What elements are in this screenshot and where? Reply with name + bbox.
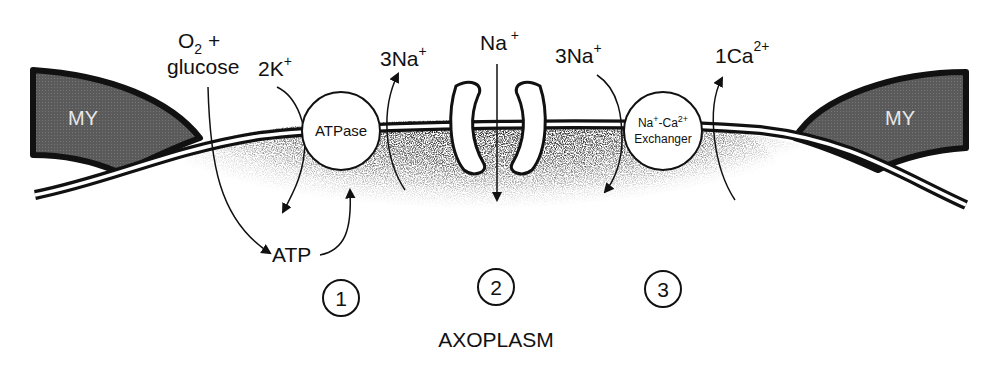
marker-1: 1 — [323, 280, 359, 316]
axoplasm-label: AXOPLASM — [438, 328, 554, 351]
svg-text:2: 2 — [490, 276, 502, 299]
svg-text:1: 1 — [335, 287, 347, 310]
glucose-label: glucose — [167, 55, 239, 78]
marker-3: 3 — [645, 271, 681, 307]
exchanger-label-line2: Exchanger — [634, 132, 691, 146]
myelin-left-label: MY — [68, 107, 98, 129]
myelin-right-label: MY — [885, 107, 915, 129]
atpase-label: ATPase — [315, 122, 367, 139]
marker-2: 2 — [478, 269, 514, 305]
axon-membrane-diagram: MY MY Na+ ATPase 2K+ 3Na+ ATP O2 + gluco… — [0, 0, 1002, 365]
svg-text:3: 3 — [657, 278, 669, 301]
atp-label: ATP — [272, 243, 311, 266]
